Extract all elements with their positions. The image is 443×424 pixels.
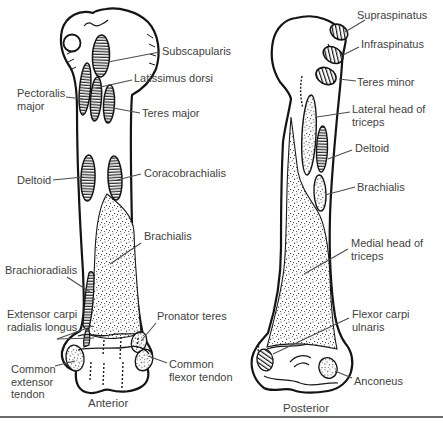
label-flexor-carpi-ulnaris: Flexor carpi ulnaris <box>352 308 430 333</box>
label-latissimus-dorsi: Latissimus dorsi <box>134 72 213 85</box>
label-anconeus: Anconeus <box>354 375 403 388</box>
label-teres-minor: Teres minor <box>357 76 414 89</box>
label-deltoid-anterior: Deltoid <box>17 174 51 187</box>
label-coracobrachialis: Coracobrachialis <box>144 167 226 180</box>
label-common-flexor-tendon: Common flexor tendon <box>169 358 239 383</box>
label-infraspinatus: Infraspinatus <box>361 38 424 51</box>
label-brachioradialis: Brachioradialis <box>5 264 77 277</box>
label-extensor-carpi-radialis-longus: Extensor carpi radialis longus <box>7 308 81 333</box>
label-supraspinatus: Supraspinatus <box>357 9 427 22</box>
label-brachialis-anterior: Brachialis <box>144 230 192 243</box>
posterior-humerus-bone <box>252 16 353 393</box>
label-pectoralis-major: Pectoralis major <box>17 87 72 112</box>
label-medial-head-of-triceps: Medial head of triceps <box>351 237 425 262</box>
figure-humerus-attachments: Subscapularis Latissimus dorsi Pectorali… <box>0 0 443 424</box>
caption-posterior: Posterior <box>283 402 329 414</box>
label-teres-major: Teres major <box>142 107 199 120</box>
label-brachialis-posterior: Brachialis <box>357 181 405 194</box>
label-common-extensor-tendon: Common extensor tendon <box>11 363 67 401</box>
label-subscapularis: Subscapularis <box>162 45 231 58</box>
label-pronator-teres: Pronator teres <box>157 310 227 323</box>
leader-supraspinatus <box>345 20 365 32</box>
greater-tubercle-facet <box>64 35 81 52</box>
label-lateral-head-of-triceps: Lateral head of triceps <box>352 103 426 128</box>
label-deltoid-posterior: Deltoid <box>355 142 389 155</box>
anterior-humerus-bone <box>61 9 159 394</box>
caption-anterior: Anterior <box>88 397 128 409</box>
